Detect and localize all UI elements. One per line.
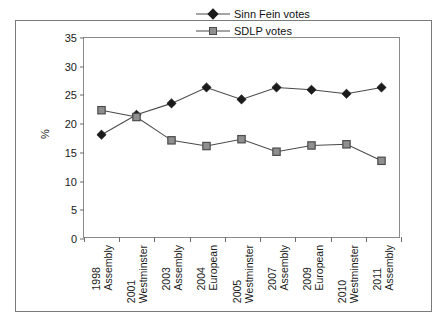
data-point-diamond-icon [272, 83, 281, 92]
data-point-square-icon [378, 157, 385, 164]
y-axis-tick-label: 25 [65, 89, 77, 101]
data-point-square-icon [343, 141, 350, 148]
y-axis-title: % [39, 129, 51, 139]
x-label-year: 2010 [337, 245, 349, 303]
x-axis-tick-label: 2011Assembly [372, 245, 395, 291]
x-axis-tick-mark [331, 237, 332, 242]
series-sinn-fein [97, 83, 386, 139]
y-axis-tick-mark [80, 38, 84, 39]
x-label-year: 1998 [90, 245, 102, 291]
data-point-square-icon [308, 142, 315, 149]
x-axis-tick-label: 1998Assembly [90, 245, 113, 291]
y-axis-tick-mark [80, 66, 84, 67]
x-axis-tick-mark [260, 237, 261, 242]
y-axis-tick-label: 10 [65, 176, 77, 188]
y-axis-tick-mark [80, 152, 84, 153]
x-axis-tick-mark [84, 237, 85, 242]
data-point-square-icon [238, 136, 245, 143]
legend-marker-diamond-icon [196, 8, 230, 20]
data-point-diamond-icon [307, 85, 316, 94]
x-axis-tick-mark [154, 237, 155, 242]
x-axis-tick-mark [119, 237, 120, 242]
x-label-election: Westminster [243, 245, 255, 303]
chart-legend: Sinn Fein votes SDLP votes [196, 5, 310, 39]
legend-item-sinn-fein: Sinn Fein votes [196, 5, 310, 22]
y-axis-tick-label: 20 [65, 118, 77, 130]
x-axis-tick-mark [225, 237, 226, 242]
x-label-year: 2001 [125, 245, 137, 303]
data-series-layer [84, 38, 399, 237]
data-point-diamond-icon [167, 99, 176, 108]
x-axis-tick-label: 2001Westminster [125, 245, 148, 303]
legend-label-sdlp: SDLP votes [234, 25, 292, 37]
x-axis-tick-mark [190, 237, 191, 242]
y-axis-tick-mark [80, 210, 84, 211]
chart-figure: 05101520253035 1998Assembly2001Westminst… [0, 0, 448, 325]
x-axis-tick-label: 2003Assembly [161, 245, 184, 291]
x-axis-tick-label: 2007Assembly [266, 245, 289, 291]
data-point-square-icon [98, 107, 105, 114]
x-axis-tick-label: 2005Westminster [231, 245, 254, 303]
data-point-square-icon [168, 137, 175, 144]
x-axis-tick-mark [295, 237, 296, 242]
x-axis-tick-label: 2004European [196, 245, 219, 291]
x-label-year: 2003 [161, 245, 173, 291]
legend-marker-square-icon [196, 25, 230, 37]
x-axis-tick-mark [366, 237, 367, 242]
x-label-election: Assembly [102, 245, 114, 291]
x-label-election: European [207, 245, 219, 291]
data-point-diamond-icon [97, 130, 106, 139]
x-label-year: 2009 [301, 245, 313, 291]
data-point-square-icon [133, 113, 140, 120]
x-label-year: 2005 [231, 245, 243, 303]
data-point-diamond-icon [342, 89, 351, 98]
y-axis-tick-label: 0 [71, 233, 77, 245]
y-axis-tick-label: 5 [71, 204, 77, 216]
x-label-election: Assembly [383, 245, 395, 291]
data-point-diamond-icon [377, 83, 386, 92]
x-label-year: 2007 [266, 245, 278, 291]
x-label-election: European [313, 245, 325, 291]
y-axis-tick-label: 35 [65, 32, 77, 44]
x-label-election: Westminster [348, 245, 360, 303]
data-point-diamond-icon [237, 95, 246, 104]
x-label-election: Assembly [278, 245, 290, 291]
legend-label-sinn-fein: Sinn Fein votes [234, 8, 310, 20]
y-axis-tick-label: 30 [65, 61, 77, 73]
data-point-diamond-icon [202, 83, 211, 92]
x-label-election: Assembly [172, 245, 184, 291]
x-axis-tick-label: 2010Westminster [337, 245, 360, 303]
data-point-square-icon [203, 142, 210, 149]
legend-item-sdlp: SDLP votes [196, 22, 310, 39]
y-axis-tick-mark [80, 124, 84, 125]
y-axis-tick-label: 15 [65, 147, 77, 159]
y-axis-tick-mark [80, 95, 84, 96]
x-label-election: Westminster [137, 245, 149, 303]
plot-inner [84, 38, 399, 237]
data-point-square-icon [273, 148, 280, 155]
y-axis-tick-mark [80, 181, 84, 182]
x-axis-tick-mark [401, 237, 402, 242]
x-axis-tick-label: 2009European [301, 245, 324, 291]
plot-area: 05101520253035 1998Assembly2001Westminst… [83, 37, 400, 238]
